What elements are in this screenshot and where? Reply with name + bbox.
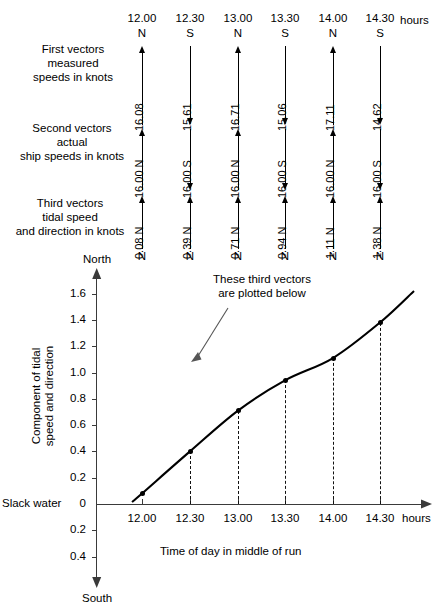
arrowhead-north [235, 129, 241, 136]
second-vectors-label: Second vectors actual ship speeds in kno… [8, 121, 136, 163]
arrowhead-north [235, 46, 241, 53]
first-vector-direction-1: S [180, 27, 200, 39]
arrowhead-north [282, 196, 288, 203]
first-vector-value-3: 15.06 [276, 103, 288, 131]
first-vectors-label-line3: speeds in knots [18, 70, 128, 84]
chart-annotation: These third vectors are plotted below [182, 272, 342, 300]
column-time-header-5: 14.30 [358, 12, 402, 24]
first-vector-direction-2: N [228, 27, 248, 39]
first-vectors-label-line1: First vectors [18, 42, 128, 56]
third-vectors-label: Third vectors tidal speed and direction … [4, 196, 136, 238]
first-vector-value-5: 14.62 [371, 103, 383, 131]
diagram-root: First vectors measured speeds in knots S… [0, 0, 439, 607]
third-vector-direction-5: N [370, 250, 390, 262]
first-vector-direction-5: S [370, 27, 390, 39]
first-vector-value-2: 16.71 [229, 103, 241, 131]
column-time-header-3: 13.30 [263, 12, 307, 24]
third-vector-direction-0: N [132, 250, 152, 262]
time-unit-suffix: hours [400, 14, 429, 26]
column-time-header-4: 14.00 [311, 12, 355, 24]
first-vectors-label: First vectors measured speeds in knots [18, 42, 128, 84]
third-vectors-label-line1: Third vectors [4, 196, 136, 210]
arrowhead-north [235, 196, 241, 203]
first-vector-value-0: 16.08 [133, 103, 145, 131]
first-vector-direction-3: S [275, 27, 295, 39]
arrowhead-north [139, 129, 145, 136]
chart-annotation-line1: These third vectors [182, 272, 342, 286]
arrowhead-north [330, 46, 336, 53]
third-vector-direction-1: N [180, 250, 200, 262]
third-vectors-label-line3: and direction in knots [4, 224, 136, 238]
arrowhead-north [139, 46, 145, 53]
chart-annotation-line2: are plotted below [182, 286, 342, 300]
arrowhead-north [139, 196, 145, 203]
third-vector-direction-4: N [323, 250, 343, 262]
arrowhead-north [330, 196, 336, 203]
first-vectors-label-line2: measured [18, 56, 128, 70]
tidal-component-chart: North South Component of tidal speed and… [0, 262, 439, 607]
first-vector-direction-4: N [323, 27, 343, 39]
second-vector-value-2: 16.00 N [229, 159, 241, 198]
second-vectors-label-line2: actual [8, 135, 136, 149]
second-vector-value-0: 16.00 N [133, 159, 145, 198]
first-vector-direction-0: N [132, 27, 152, 39]
column-time-header-0: 12.00 [120, 12, 164, 24]
chart-vector-layer [0, 262, 439, 607]
column-time-header-1: 12.30 [168, 12, 212, 24]
first-vector-value-4: 17.11 [324, 104, 336, 131]
third-vectors-label-line2: tidal speed [4, 210, 136, 224]
first-vector-value-1: 15.61 [181, 103, 193, 131]
second-vector-value-5: 16.00 S [371, 160, 383, 198]
second-vector-value-1: 16.00 S [181, 160, 193, 198]
arrowhead-north [330, 129, 336, 136]
vector-table: First vectors measured speeds in knots S… [0, 0, 439, 262]
arrowhead-north [187, 196, 193, 203]
third-vector-direction-3: N [275, 250, 295, 262]
second-vector-value-3: 16.00 S [276, 160, 288, 198]
second-vectors-label-line3: ship speeds in knots [8, 149, 136, 163]
annotation-leader-line [197, 308, 229, 359]
second-vector-value-4: 16.00 N [324, 159, 336, 198]
tidal-curve [132, 291, 414, 502]
column-time-header-2: 13.00 [216, 12, 260, 24]
third-vector-direction-2: N [228, 250, 248, 262]
arrowhead-north [377, 196, 383, 203]
second-vectors-label-line1: Second vectors [8, 121, 136, 135]
